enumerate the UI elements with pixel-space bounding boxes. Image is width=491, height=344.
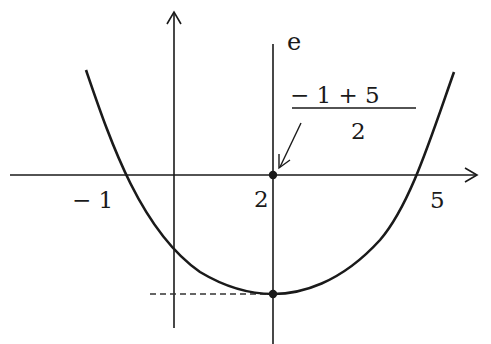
- tick-label-two: 2: [254, 186, 269, 212]
- tick-label-five: 5: [430, 187, 445, 213]
- parabola-diagram: e − 1 + 5 2 − 1 2 5: [0, 0, 491, 344]
- y-axis: [167, 12, 181, 328]
- tick-label-minus-one: − 1: [72, 187, 113, 213]
- formula-denominator: 2: [351, 118, 366, 144]
- pointer-arrow-icon: [279, 123, 301, 168]
- formula-numerator: − 1 + 5: [290, 82, 380, 108]
- parabola-curve: [86, 70, 454, 294]
- x-axis: [10, 168, 477, 182]
- point-midpoint-on-axis: [269, 171, 277, 179]
- line-e-label: e: [287, 28, 301, 56]
- point-vertex: [269, 290, 277, 298]
